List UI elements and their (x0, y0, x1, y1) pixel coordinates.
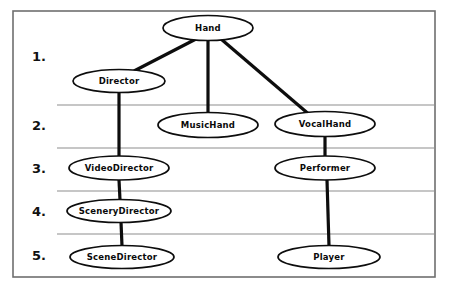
node-label: SceneDirector (87, 252, 158, 262)
row-label-3: 3. (32, 161, 46, 176)
class-node-player[interactable]: Player (278, 246, 380, 269)
node-label: VideoDirector (85, 163, 154, 173)
node-label: Director (99, 76, 140, 86)
class-node-vocalhand[interactable]: VocalHand (275, 112, 375, 137)
edge-scenerydirector-to-scenedirector (121, 222, 122, 246)
edge-videodirector-to-scenerydirector (119, 180, 120, 200)
class-node-scenerydirector[interactable]: SceneryDirector (67, 200, 171, 223)
class-node-videodirector[interactable]: VideoDirector (69, 156, 169, 180)
row-label-1: 1. (32, 49, 46, 64)
node-label: Performer (300, 163, 351, 173)
node-label: Player (313, 252, 345, 262)
diagram-frame (13, 11, 435, 277)
row-label-5: 5. (32, 248, 46, 263)
node-label: VocalHand (299, 119, 351, 129)
hierarchy-diagram: HandDirectorMusicHandVocalHandVideoDirec… (0, 0, 462, 290)
row-label-2: 2. (32, 118, 46, 133)
class-node-scenedirector[interactable]: SceneDirector (70, 246, 174, 269)
class-node-hand[interactable]: Hand (163, 16, 253, 41)
node-label: SceneryDirector (79, 206, 160, 216)
node-label: Hand (195, 23, 221, 33)
class-node-performer[interactable]: Performer (275, 156, 375, 180)
row-label-4: 4. (32, 204, 46, 219)
diagram-canvas: HandDirectorMusicHandVocalHandVideoDirec… (0, 0, 462, 290)
class-node-group: HandDirectorMusicHandVocalHandVideoDirec… (67, 16, 380, 269)
edge-performer-to-player (327, 180, 329, 246)
edge-hand-to-director (134, 39, 196, 71)
class-node-director[interactable]: Director (73, 70, 165, 93)
class-node-musichand[interactable]: MusicHand (158, 113, 258, 138)
node-label: MusicHand (181, 120, 235, 130)
row-label-group: 1.2.3.4.5. (32, 49, 46, 263)
